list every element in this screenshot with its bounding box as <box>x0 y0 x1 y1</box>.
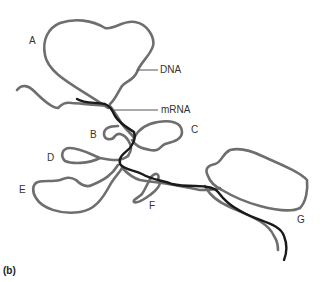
label-a: A <box>29 36 36 46</box>
dna-loop-a <box>44 20 153 108</box>
label-mrna: mRNA <box>161 105 190 115</box>
mrna-strand <box>77 99 286 260</box>
label-dna: DNA <box>160 65 181 75</box>
label-d: D <box>47 153 54 163</box>
transcription-diagram <box>0 0 326 282</box>
label-c: C <box>191 125 198 135</box>
label-g: G <box>297 215 305 225</box>
dna-right-tail <box>205 186 278 250</box>
dna-loop-g <box>206 149 307 210</box>
dna-loop-c <box>132 121 182 150</box>
dna-loop-d <box>62 148 128 163</box>
dna-loop-e <box>33 165 122 213</box>
label-b: B <box>90 130 97 140</box>
label-e: E <box>19 185 26 195</box>
panel-label: (b) <box>3 265 16 276</box>
label-f: F <box>149 201 155 211</box>
